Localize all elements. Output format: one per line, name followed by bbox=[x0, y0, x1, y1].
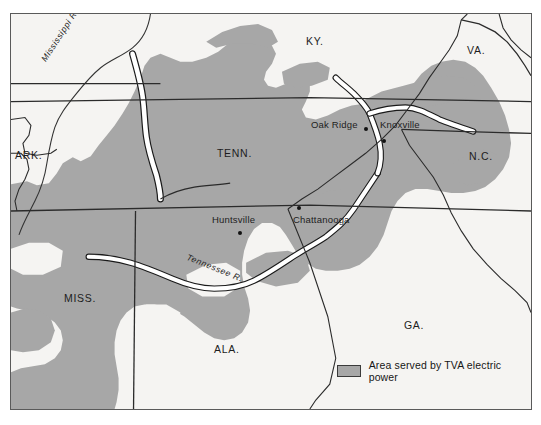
city-dot-knoxville bbox=[382, 139, 386, 143]
map-frame: ARK. MISS. TENN. ALA. KY. GA. N.C. VA. O… bbox=[10, 13, 532, 410]
city-dot-chattanooga bbox=[297, 206, 301, 210]
map-graphic bbox=[11, 14, 531, 409]
legend-label-served-area: Area served by TVA electric power bbox=[369, 359, 531, 383]
map-legend: Area served by TVA electric power bbox=[337, 359, 531, 383]
city-dot-oak-ridge bbox=[364, 127, 368, 131]
border-ar-west bbox=[11, 117, 57, 155]
border-va-ky bbox=[461, 14, 467, 20]
legend-swatch-served-area bbox=[337, 365, 361, 377]
city-dot-huntsville bbox=[238, 231, 242, 235]
tva-service-area-map: ARK. MISS. TENN. ALA. KY. GA. N.C. VA. O… bbox=[0, 0, 541, 425]
